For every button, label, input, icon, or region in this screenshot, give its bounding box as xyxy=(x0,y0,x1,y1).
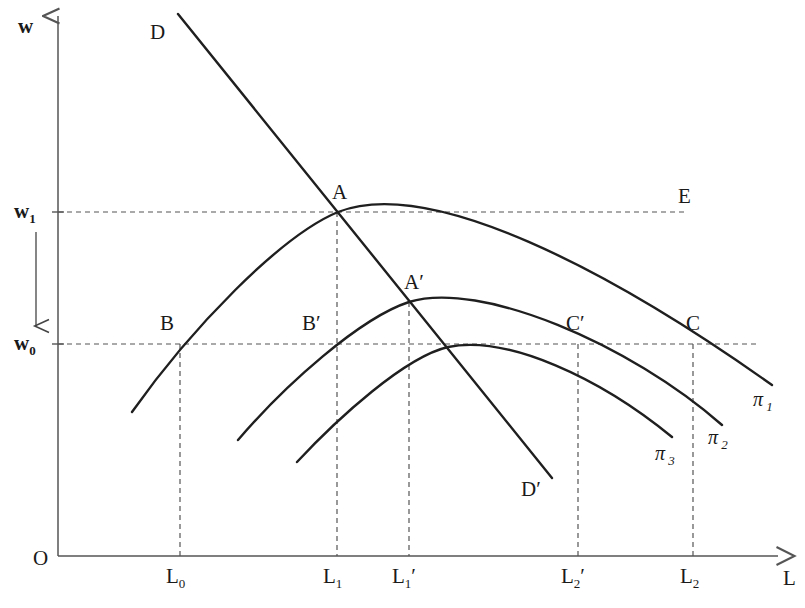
curve-label-pi1-sub: 1 xyxy=(766,399,773,414)
x-tick-base-L2: L xyxy=(680,564,693,588)
y-tick-base-w0: w xyxy=(14,331,29,355)
y-axis-label: w xyxy=(18,16,33,37)
y-tick-base-w1: w xyxy=(14,199,29,223)
isoprofit-curve-pi1 xyxy=(132,204,772,412)
origin-label: O xyxy=(33,548,48,569)
x-tick-prime-L1-prime: ′ xyxy=(411,564,416,588)
curve-label-D-prime: D′ xyxy=(521,479,541,500)
x-tick-label-L2: L2 xyxy=(680,566,699,590)
curve-label-pi1: π 1 xyxy=(753,389,773,413)
curve-label-pi2: π 2 xyxy=(708,427,728,451)
labour-demand-curve xyxy=(178,14,552,478)
curve-label-pi3: π 3 xyxy=(655,443,675,467)
point-label-A: A xyxy=(332,182,347,203)
point-label-E: E xyxy=(678,186,691,207)
x-axis-label: L xyxy=(783,568,796,589)
point-label-B-prime: B′ xyxy=(302,313,321,334)
curve-label-pi1-base: π xyxy=(753,388,763,410)
curve-label-pi2-sub: 2 xyxy=(721,437,728,452)
y-tick-label-w1: w1 xyxy=(14,201,36,225)
x-tick-base-L1-prime: L xyxy=(392,564,405,588)
point-label-C-prime: C′ xyxy=(566,313,585,334)
x-tick-label-L2-prime: L2′ xyxy=(561,566,585,590)
y-tick-sub-w0: 0 xyxy=(29,343,36,358)
point-label-A-prime: A′ xyxy=(404,272,424,293)
x-tick-sub-L1: 1 xyxy=(336,576,343,591)
figure-canvas: w L O w1 w0 L0 L1 L1′ L2′ L2 D D′ π 1 π … xyxy=(0,0,805,608)
y-tick-sub-w1: 1 xyxy=(29,211,36,226)
y-tick-label-w0: w0 xyxy=(14,333,36,357)
x-tick-label-L0: L0 xyxy=(166,566,185,590)
isoprofit-curve-pi3 xyxy=(297,345,672,462)
point-label-C: C xyxy=(686,313,700,334)
x-tick-base-L2-prime: L xyxy=(561,564,574,588)
diagram-svg xyxy=(0,0,805,608)
curve-label-pi2-base: π xyxy=(708,426,718,448)
curve-label-pi3-sub: 3 xyxy=(668,453,675,468)
curve-label-D: D xyxy=(150,22,165,43)
curve-label-pi3-base: π xyxy=(655,442,665,464)
x-tick-sub-L2: 2 xyxy=(693,576,700,591)
x-tick-label-L1: L1 xyxy=(323,566,342,590)
x-tick-base-L0: L xyxy=(166,564,179,588)
point-label-B: B xyxy=(160,313,174,334)
x-tick-label-L1-prime: L1′ xyxy=(392,566,416,590)
x-tick-prime-L2-prime: ′ xyxy=(580,564,585,588)
x-tick-sub-L0: 0 xyxy=(179,576,186,591)
x-tick-base-L1: L xyxy=(323,564,336,588)
